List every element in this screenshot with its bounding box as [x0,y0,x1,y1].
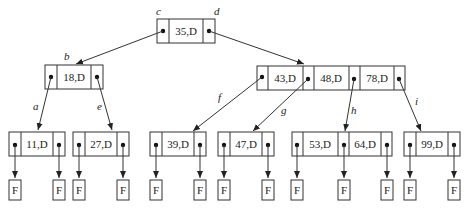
edge-label-a: a [33,100,39,112]
svg-text:F: F [12,184,18,196]
svg-text:F: F [56,184,62,196]
key-label: 27,D [90,138,112,150]
svg-text:F: F [294,184,300,196]
root-node: 35,D [157,19,215,43]
svg-text:F: F [120,184,126,196]
node-18: 18,D [45,65,103,89]
leaf-39: 39,D [150,132,206,156]
key-label: 18,D [63,71,85,83]
svg-text:F: F [76,184,82,196]
svg-text:F: F [153,184,159,196]
edge-label-d: d [214,5,220,17]
edge-label-g: g [281,104,287,116]
key-label: 39,D [167,138,189,150]
key-label: 78,D [366,72,388,84]
svg-text:F: F [197,184,203,196]
svg-text:F: F [221,184,227,196]
edge-label-h: h [351,104,357,116]
svg-text:F: F [384,184,390,196]
edge-f [193,77,262,131]
svg-text:F: F [265,184,271,196]
edge-label-f: f [218,91,223,103]
key-label: 53,D [309,138,331,150]
edge-label-c: c [156,5,161,17]
edge-label-e: e [97,100,102,112]
svg-text:F: F [341,184,347,196]
key-label: 47,D [235,138,257,150]
edge-label-b: b [64,50,70,62]
svg-text:F: F [407,184,413,196]
key-label: 35,D [175,25,197,37]
key-label: 64,D [354,138,376,150]
edge-label-i: i [415,95,418,107]
leaf-47: 47,D [218,132,274,156]
key-label: 48,D [320,72,342,84]
key-label: 11,D [26,138,47,150]
edge-d [209,31,304,64]
leaf-99: 99,D [404,132,460,156]
leaf-11: 11,D [9,132,65,156]
svg-text:F: F [451,184,457,196]
key-label: 43,D [274,72,296,84]
leaf-27: 27,D [73,132,129,156]
node-43-48-78: 43,D 48,D 78,D [257,66,405,90]
b-tree-diagram: 35,D c d b 18,D 43,D 48,D 78,D a e f [0,0,464,208]
key-label: 99,D [421,138,443,150]
leaf-53-64: 53,D 64,D [292,132,392,156]
edge-b [76,31,163,64]
